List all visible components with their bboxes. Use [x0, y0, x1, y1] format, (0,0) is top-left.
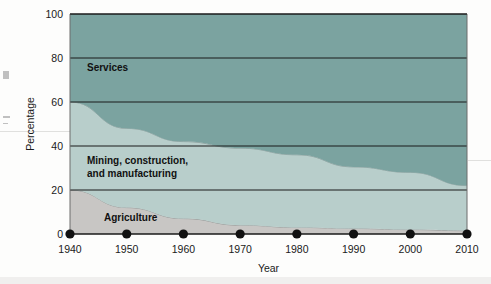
y-tick-label-60: 60: [51, 96, 63, 108]
y-tick-label-80: 80: [51, 52, 63, 64]
y-tick-label-100: 100: [45, 8, 63, 20]
x-tick-marker-1990: [349, 229, 358, 238]
x-tick-label-1970: 1970: [228, 243, 252, 255]
y-axis-title: Percentage: [24, 97, 36, 151]
stacked-area-chart: 0204060801001940195019601970198019902000…: [0, 0, 491, 284]
x-tick-label-1960: 1960: [172, 243, 196, 255]
band-label: and manufacturing: [87, 168, 177, 179]
y-tick-label-20: 20: [51, 184, 63, 196]
band-label: Agriculture: [104, 212, 158, 223]
x-tick-label-1940: 1940: [58, 243, 82, 255]
x-tick-marker-1940: [65, 229, 74, 238]
y-tick-label-0: 0: [57, 228, 63, 240]
x-tick-marker-1960: [179, 229, 188, 238]
area-bands: [70, 14, 467, 234]
x-tick-marker-2000: [406, 229, 415, 238]
x-tick-label-2010: 2010: [455, 243, 479, 255]
band-label: Services: [87, 62, 129, 73]
x-tick-marker-1950: [122, 229, 131, 238]
x-tick-label-2000: 2000: [399, 243, 423, 255]
y-tick-label-40: 40: [51, 140, 63, 152]
x-tick-marker-1980: [292, 229, 301, 238]
x-tick-label-1980: 1980: [285, 243, 309, 255]
x-tick-label-1950: 1950: [115, 243, 139, 255]
chart-screenshot: 0204060801001940195019601970198019902000…: [0, 0, 491, 284]
x-tick-marker-1970: [236, 229, 245, 238]
band-label: Mining, construction,: [87, 155, 188, 166]
x-tick-marker-2010: [462, 229, 471, 238]
y-tick-labels: 020406080100: [45, 8, 63, 240]
x-axis-title: Year: [258, 262, 280, 274]
x-tick-label-1990: 1990: [342, 243, 366, 255]
